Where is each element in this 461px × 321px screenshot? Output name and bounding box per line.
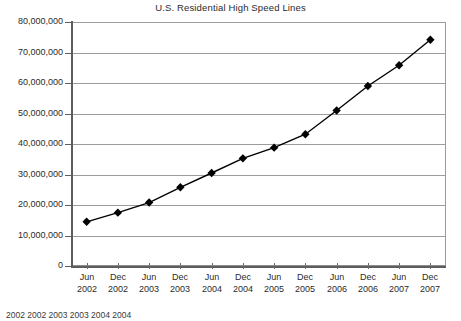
- series-markers: [82, 35, 434, 225]
- data-point-marker: [207, 169, 215, 177]
- series-line: [87, 40, 431, 222]
- data-point-marker: [270, 143, 278, 151]
- data-point-marker: [176, 183, 184, 191]
- data-point-marker: [114, 208, 122, 216]
- chart-figure: U.S. Residential High Speed Lines 80,000…: [0, 0, 461, 321]
- data-point-marker: [82, 218, 90, 226]
- data-point-marker: [145, 198, 153, 206]
- data-point-marker: [239, 154, 247, 162]
- data-series: [0, 0, 461, 321]
- figure-caption: 2002 2002 2003 2003 2004 2004: [6, 310, 436, 321]
